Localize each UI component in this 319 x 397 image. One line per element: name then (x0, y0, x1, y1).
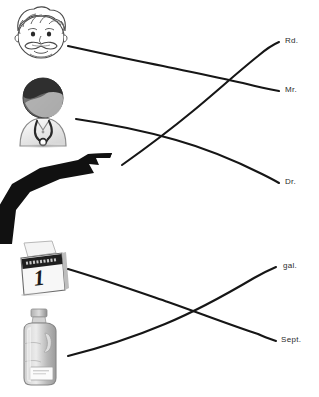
connector-lines-layer (0, 0, 319, 397)
connector-doctor-to-dr (76, 119, 279, 183)
answer-label-gal[interactable]: gal. (283, 262, 297, 270)
answer-label-mr[interactable]: Mr. (285, 86, 297, 94)
connector-milk-jug-to-gal (68, 267, 276, 356)
connector-man-face-to-mr (68, 46, 279, 91)
connector-calendar-to-sept (68, 269, 276, 341)
answer-label-sept[interactable]: Sept. (281, 336, 301, 344)
answer-label-rd[interactable]: Rd. (285, 37, 298, 45)
worksheet-page: 1 (0, 0, 319, 397)
connector-road-to-rd (122, 42, 279, 165)
answer-label-dr[interactable]: Dr. (285, 178, 296, 186)
